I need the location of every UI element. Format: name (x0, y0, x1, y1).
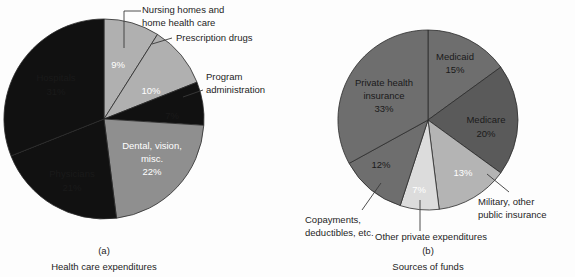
callout-military-line1: Military, other (478, 196, 547, 209)
label-dental-line1: Dental, vision, (122, 140, 182, 151)
panel-a-pie-svg: Hospitals 31% Physicians 21% Dental, vis… (0, 0, 575, 277)
callout-program-administration-line1: Program (206, 71, 265, 84)
label-medicaid-value: 15% (445, 64, 465, 75)
label-hospitals-name: Hospitals (36, 72, 75, 83)
pie-chart-figure: Hospitals 31% Physicians 21% Dental, vis… (0, 0, 575, 277)
label-medicare-name: Medicare (466, 114, 505, 125)
label-copayments-value: 12% (371, 159, 391, 170)
panel-a-caption-letter: (a) (54, 245, 154, 256)
callout-other-private-line1: Other private expenditures (375, 231, 487, 244)
label-medicare-value: 20% (476, 128, 496, 139)
callout-nursing-homes-line1: Nursing homes and (142, 4, 224, 17)
label-prescription-drugs-value: 10% (141, 85, 161, 96)
panel-a-caption-title: Health care expenditures (24, 261, 184, 272)
callout-copayments-deductibles: Copayments, deductibles, etc. (305, 214, 374, 239)
callout-other-private-expenditures: Other private expenditures (375, 231, 487, 244)
panel-b-caption-letter: (b) (378, 245, 478, 256)
label-dental-line2: misc. (141, 153, 163, 164)
callout-copayments-line2: deductibles, etc. (305, 227, 374, 240)
label-private-health-insurance-line1: Private health (355, 77, 413, 88)
label-military-value: 13% (453, 167, 473, 178)
callout-military-other-public-insurance: Military, other public insurance (478, 196, 547, 221)
label-medicaid-name: Medicaid (436, 51, 474, 62)
label-program-administration-value: 7% (165, 110, 179, 121)
callout-nursing-homes-line2: home health care (142, 17, 224, 30)
label-physicians-value: 21% (62, 182, 82, 193)
callout-program-administration: Program administration (206, 71, 265, 96)
label-physicians-name: Physicians (49, 168, 95, 179)
callout-program-administration-line2: administration (206, 84, 265, 97)
label-nursing-homes-value: 9% (111, 59, 125, 70)
callout-nursing-homes: Nursing homes and home health care (142, 4, 224, 29)
label-hospitals-value: 31% (46, 86, 66, 97)
label-private-health-insurance-line2: insurance (363, 90, 404, 101)
callout-prescription-drugs-line1: Prescription drugs (176, 32, 253, 45)
label-other-private-value: 7% (412, 184, 426, 195)
panel-b-caption-title: Sources of funds (358, 261, 498, 272)
label-dental-value: 22% (142, 166, 162, 177)
label-private-health-insurance-value: 33% (374, 103, 394, 114)
callout-copayments-line1: Copayments, (305, 214, 374, 227)
callout-prescription-drugs: Prescription drugs (176, 32, 253, 45)
callout-military-line2: public insurance (478, 209, 547, 222)
